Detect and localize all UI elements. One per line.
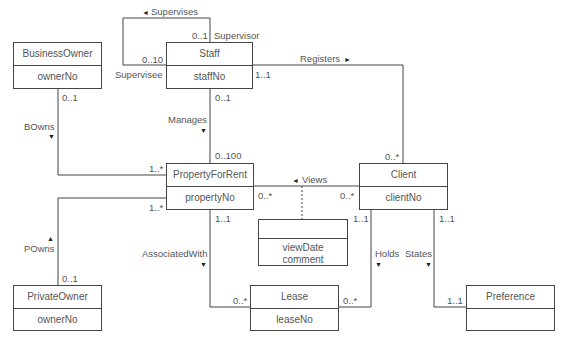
direction-left-icon: ◄ [142, 9, 149, 17]
multiplicity-registers-staff: 1..1 [255, 69, 271, 80]
class-name: BusinessOwner [14, 43, 101, 66]
class-attribute: leaseNo [251, 309, 338, 326]
multiplicity-bowns-property: 1..* [149, 163, 163, 174]
multiplicity-supervisor: 0..1 [192, 30, 208, 41]
association-label-states: States [405, 248, 432, 259]
multiplicity-holds-client: 1..1 [353, 213, 369, 224]
multiplicity-bowns-owner: 0..1 [62, 92, 78, 103]
class-attribute: clientNo [360, 187, 447, 204]
class-attribute: ownerNo [14, 66, 101, 83]
class-attribute-empty [467, 309, 554, 314]
multiplicity-powns-property: 1..* [149, 202, 163, 213]
class-staff[interactable]: Staff staffNo [166, 42, 253, 89]
class-business-owner[interactable]: BusinessOwner ownerNo [13, 42, 102, 89]
association-label-registers: Registers [300, 53, 340, 64]
association-label-manages: Manages [168, 114, 207, 125]
class-name: PropertyForRent [167, 164, 253, 187]
role-supervisor: Supervisor [214, 30, 259, 41]
class-name: Client [360, 164, 447, 187]
multiplicity-views-client: 0..* [340, 190, 354, 201]
class-attribute: staffNo [167, 66, 252, 83]
direction-down-icon: ▼ [48, 133, 55, 141]
association-label-powns: POwns [24, 243, 55, 254]
class-attribute: propertyNo [167, 187, 253, 204]
class-name: Lease [251, 286, 338, 309]
direction-down-icon: ▼ [200, 127, 207, 135]
class-views-association[interactable]: viewDate comment [258, 219, 348, 266]
direction-left-icon: ◄ [292, 177, 299, 185]
association-label-views: Views [302, 174, 327, 185]
association-label-holds: Holds [375, 248, 399, 259]
direction-up-icon: ▲ [47, 235, 54, 243]
role-supervisee: Supervisee [115, 69, 163, 80]
multiplicity-manages-property: 0..100 [215, 150, 241, 161]
association-label-bowns: BOwns [24, 121, 55, 132]
class-lease[interactable]: Lease leaseNo [250, 285, 339, 331]
multiplicity-manages-staff: 0..1 [215, 92, 231, 103]
class-name: Staff [167, 43, 252, 66]
class-attribute: comment [259, 254, 347, 266]
multiplicity-states-preference: 1..1 [447, 295, 463, 306]
direction-down-icon: ▼ [425, 261, 432, 269]
direction-down-icon: ▼ [375, 261, 382, 269]
direction-right-icon: ► [344, 56, 351, 64]
class-private-owner[interactable]: PrivateOwner ownerNo [13, 285, 102, 331]
class-client[interactable]: Client clientNo [359, 163, 448, 210]
class-property-for-rent[interactable]: PropertyForRent propertyNo [166, 163, 254, 210]
class-name: Preference [467, 286, 554, 309]
multiplicity-associatedwith-property: 1..1 [215, 213, 231, 224]
multiplicity-associatedwith-lease: 0..* [233, 295, 247, 306]
registers-line [252, 65, 403, 163]
multiplicity-states-client: 1..1 [439, 213, 455, 224]
association-label-associatedwith: AssociatedWith [142, 248, 207, 259]
direction-down-icon: ▼ [200, 261, 207, 269]
class-name [259, 220, 347, 239]
class-attribute: viewDate [259, 239, 347, 254]
multiplicity-powns-owner: 0..1 [62, 273, 78, 284]
multiplicity-supervisee: 0..10 [142, 54, 163, 65]
multiplicity-holds-lease: 0..* [343, 295, 357, 306]
class-preference[interactable]: Preference [466, 285, 555, 331]
multiplicity-registers-client: 0..* [385, 151, 399, 162]
association-label-supervises: Supervises [151, 6, 198, 17]
multiplicity-views-property: 0..* [258, 190, 272, 201]
class-attribute: ownerNo [14, 309, 101, 326]
class-name: PrivateOwner [14, 286, 101, 309]
